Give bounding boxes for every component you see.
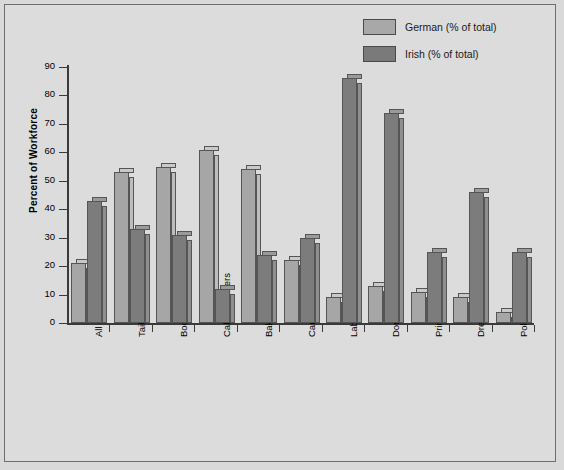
- bar-face: [156, 167, 171, 323]
- x-tick-1: [152, 325, 153, 332]
- bar-face: [215, 289, 230, 323]
- bar-series-container: [67, 5, 534, 323]
- y-tick-label-50: 50: [33, 174, 55, 185]
- bar-face: [199, 150, 214, 324]
- bar-face: [342, 78, 357, 323]
- bar-german-6: [326, 297, 341, 323]
- bar-side: [527, 257, 532, 323]
- bar-side: [357, 83, 362, 323]
- bar-side: [315, 243, 320, 323]
- bar-face: [469, 192, 484, 323]
- x-tick-8: [449, 325, 450, 332]
- bar-face: [284, 260, 299, 323]
- x-tick-4: [279, 325, 280, 332]
- bar-german-8: [411, 292, 426, 323]
- bar-face: [453, 297, 468, 323]
- bar-face: [241, 169, 256, 323]
- bar-side: [272, 260, 277, 323]
- bar-german-2: [156, 167, 171, 323]
- bar-irish-5: [300, 238, 315, 323]
- bar-german-3: [199, 150, 214, 324]
- bar-german-10: [496, 312, 511, 323]
- x-tick-5: [322, 325, 323, 332]
- x-tick-2: [194, 325, 195, 332]
- bar-german-4: [241, 169, 256, 323]
- bar-face: [257, 255, 272, 323]
- bar-irish-8: [427, 252, 442, 323]
- bar-face: [512, 252, 527, 323]
- y-tick-label-80: 80: [33, 88, 55, 99]
- y-tick-label-90: 90: [33, 60, 55, 71]
- bar-irish-9: [469, 192, 484, 323]
- y-tick-0: [59, 323, 68, 324]
- x-tick-9: [492, 325, 493, 332]
- bar-face: [114, 172, 129, 323]
- y-tick-label-0: 0: [33, 316, 55, 327]
- chart-frame: German (% of total) Irish (% of total) P…: [4, 4, 556, 462]
- bar-german-9: [453, 297, 468, 323]
- bar-face: [427, 252, 442, 323]
- y-tick-label-20: 20: [33, 259, 55, 270]
- bar-side: [230, 294, 235, 323]
- x-tick-0: [109, 325, 110, 332]
- bar-german-0: [71, 263, 86, 323]
- bar-side: [145, 234, 150, 323]
- bar-irish-2: [172, 235, 187, 323]
- bar-face: [87, 201, 102, 323]
- chart-plot-area: German (% of total) Irish (% of total) P…: [5, 5, 555, 461]
- bar-german-5: [284, 260, 299, 323]
- bar-side: [484, 197, 489, 323]
- y-tick-label-60: 60: [33, 145, 55, 156]
- y-tick-label-70: 70: [33, 117, 55, 128]
- bar-face: [326, 297, 341, 323]
- bar-irish-6: [342, 78, 357, 323]
- bar-face: [300, 238, 315, 323]
- bar-face: [411, 292, 426, 323]
- bar-irish-10: [512, 252, 527, 323]
- bar-german-1: [114, 172, 129, 323]
- bar-irish-0: [87, 201, 102, 323]
- bar-side: [102, 206, 107, 323]
- bar-irish-4: [257, 255, 272, 323]
- bar-face: [368, 286, 383, 323]
- y-tick-label-30: 30: [33, 231, 55, 242]
- bar-irish-1: [130, 229, 145, 323]
- x-tick-10: [534, 325, 535, 332]
- x-tick-3: [237, 325, 238, 332]
- y-tick-label-10: 10: [33, 288, 55, 299]
- x-tick-7: [407, 325, 408, 332]
- x-tick-6: [364, 325, 365, 332]
- bar-side: [442, 257, 447, 323]
- bar-face: [130, 229, 145, 323]
- bar-side: [399, 118, 404, 323]
- bar-side: [187, 240, 192, 323]
- bar-face: [384, 113, 399, 323]
- bar-german-7: [368, 286, 383, 323]
- bar-irish-7: [384, 113, 399, 323]
- bar-irish-3: [215, 289, 230, 323]
- bar-face: [496, 312, 511, 323]
- y-tick-label-40: 40: [33, 202, 55, 213]
- bar-face: [172, 235, 187, 323]
- bar-face: [71, 263, 86, 323]
